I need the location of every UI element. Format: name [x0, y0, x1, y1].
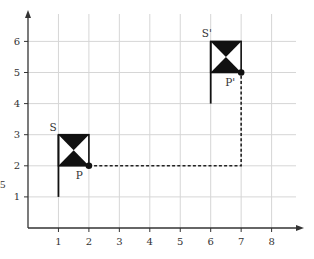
- translation-path: [89, 73, 241, 166]
- coordinate-diagram: 5 12345678123456 SPS'P': [0, 0, 314, 259]
- x-tick-label: 6: [208, 236, 214, 247]
- grid-lines: [28, 14, 296, 228]
- x-tick-label: 2: [86, 236, 92, 247]
- y-tick-label: 1: [14, 191, 20, 202]
- shape-label: S: [49, 121, 56, 133]
- axes: [25, 10, 304, 231]
- y-tick-label: 3: [14, 129, 20, 140]
- x-axis-arrow-icon: [296, 225, 304, 231]
- x-tick-label: 4: [147, 236, 153, 247]
- x-tick-label: 1: [55, 236, 61, 247]
- point-label: P: [76, 169, 83, 181]
- point-dot: [238, 69, 245, 76]
- hourglass-bottom-triangle: [211, 57, 241, 73]
- hourglass-top-triangle: [211, 41, 241, 57]
- x-tick-label: 7: [238, 236, 244, 247]
- y-tick-label: 4: [14, 98, 20, 109]
- plot-area: 12345678123456 SPS'P': [0, 0, 314, 259]
- hourglass-top-triangle: [58, 135, 88, 151]
- x-tick-label: 3: [116, 236, 122, 247]
- x-tick-label: 5: [177, 236, 183, 247]
- translation-dashed-line: [89, 73, 241, 166]
- hourglass-bottom-triangle: [58, 150, 88, 166]
- shape-label: S': [202, 27, 212, 39]
- flag-shapes: SPS'P': [49, 27, 244, 197]
- y-tick-label: 2: [14, 160, 20, 171]
- flag-S: SP: [49, 121, 92, 197]
- stray-margin-character: 5: [0, 178, 6, 190]
- y-axis-arrow-icon: [25, 10, 31, 18]
- point-label: P': [225, 76, 235, 88]
- x-tick-label: 8: [268, 236, 274, 247]
- point-dot: [86, 163, 93, 170]
- y-tick-label: 6: [14, 36, 20, 47]
- flag-S-prime: S'P': [202, 27, 245, 103]
- y-tick-label: 5: [14, 67, 20, 78]
